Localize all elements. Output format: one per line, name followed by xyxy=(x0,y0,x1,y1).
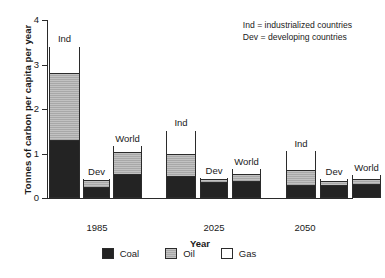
bar-segment-gas xyxy=(114,145,141,152)
y-tick-label-0: 0 xyxy=(25,193,39,203)
bar-2025-ind[interactable] xyxy=(166,131,196,198)
bar-label-2025-world: World xyxy=(228,157,265,167)
legend-item-gas[interactable]: Gas xyxy=(221,248,256,259)
bar-segment-oil xyxy=(84,180,109,188)
x-tick-label-1985: 1985 xyxy=(67,222,127,233)
legend-swatch-oil-icon xyxy=(165,248,177,259)
y-axis-line xyxy=(47,20,48,199)
legend-swatch-coal-icon xyxy=(102,248,114,259)
y-tick-0 xyxy=(42,198,47,199)
bar-label-2025-ind: Ind xyxy=(166,118,196,128)
bar-segment-coal xyxy=(167,177,195,197)
bar-label-1985-world: World xyxy=(109,134,146,144)
bar-segment-coal xyxy=(114,175,141,197)
bar-segment-coal xyxy=(50,141,79,198)
y-tick-2 xyxy=(42,109,47,110)
bar-label-2050-world: World xyxy=(347,163,385,173)
bar-2050-dev[interactable] xyxy=(320,179,348,198)
legend-label-gas: Gas xyxy=(239,248,256,259)
legend-item-coal[interactable]: Coal xyxy=(102,248,140,259)
bar-label-1985-ind: Ind xyxy=(49,34,80,44)
y-tick-3 xyxy=(42,65,47,66)
bar-1985-world[interactable] xyxy=(113,146,142,198)
chart-legend: Coal Oil Gas xyxy=(0,248,358,259)
y-tick-label-1: 1 xyxy=(25,149,39,159)
y-tick-label-4: 4 xyxy=(25,15,39,25)
legend-item-oil[interactable]: Oil xyxy=(165,248,195,259)
bar-segment-gas xyxy=(167,130,195,154)
bar-segment-oil xyxy=(233,174,260,182)
x-tick-label-2025: 2025 xyxy=(184,222,244,233)
plot-area: 4 3 2 1 0 Ind Dev World Ind xyxy=(47,20,353,198)
bar-2050-world[interactable] xyxy=(352,175,381,198)
y-tick-label-2: 2 xyxy=(25,104,39,114)
bar-segment-gas xyxy=(287,150,315,171)
bar-segment-gas xyxy=(50,46,79,74)
bar-1985-dev[interactable] xyxy=(83,179,110,198)
bar-segment-coal xyxy=(233,182,260,197)
legend-label-coal: Coal xyxy=(120,248,140,259)
y-tick-4 xyxy=(42,20,47,21)
bar-segment-coal xyxy=(353,185,380,197)
bar-label-1985-dev: Dev xyxy=(81,167,112,177)
bar-2050-ind[interactable] xyxy=(286,151,316,198)
bar-label-2025-dev: Dev xyxy=(198,166,230,176)
bar-2025-dev[interactable] xyxy=(200,178,228,198)
bar-segment-oil xyxy=(114,152,141,175)
x-axis-line xyxy=(47,198,353,199)
bar-1985-ind[interactable] xyxy=(49,47,80,198)
x-tick-label-2050: 2050 xyxy=(275,222,335,233)
bar-segment-coal xyxy=(287,186,315,197)
bar-label-2050-ind: Ind xyxy=(286,139,316,149)
bar-segment-oil xyxy=(50,73,79,140)
bar-segment-coal xyxy=(84,188,109,197)
bar-label-2050-dev: Dev xyxy=(318,167,350,177)
legend-swatch-gas-icon xyxy=(221,248,233,259)
bar-segment-coal xyxy=(321,186,347,197)
bar-segment-oil xyxy=(167,154,195,178)
legend-label-oil: Oil xyxy=(183,248,195,259)
y-tick-1 xyxy=(42,154,47,155)
bar-segment-oil xyxy=(287,170,315,186)
y-tick-label-3: 3 xyxy=(25,60,39,70)
bar-2025-world[interactable] xyxy=(232,169,261,198)
bar-segment-coal xyxy=(201,183,227,197)
